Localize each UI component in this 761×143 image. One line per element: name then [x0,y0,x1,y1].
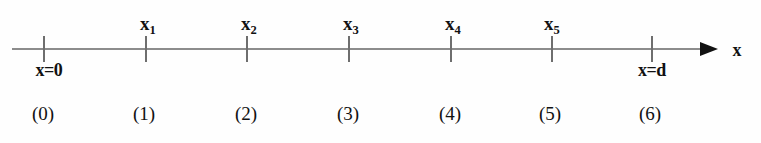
point-label-x3-base: x [343,13,353,34]
tick-mark-3 [348,36,350,62]
point-label-x4-base: x [445,13,455,34]
index-label-4: (4) [439,104,461,123]
point-label-x3-subscript: 3 [353,23,359,37]
axis-name-label: x [733,41,742,59]
point-label-x1-subscript: 1 [150,23,156,37]
index-label-3: (3) [337,104,359,123]
axis-arrowhead [700,42,718,56]
point-label-x5: x5 [544,14,560,37]
tick-mark-5 [551,36,553,62]
point-label-x5-base: x [544,13,554,34]
tick-mark-2 [246,36,248,62]
index-label-0: (0) [32,104,54,123]
index-label-6: (6) [639,104,661,123]
point-label-x4: x4 [445,14,461,37]
index-label-2: (2) [235,104,257,123]
tick-mark-1 [145,36,147,62]
point-label-x2: x2 [241,14,257,37]
number-line-figure: x x1 x2 x3 x4 x5 x=0 x=d (0) (1) (2) (3)… [0,0,761,143]
point-label-x1-base: x [140,13,150,34]
point-label-x5-subscript: 5 [554,23,560,37]
axis-line [12,48,700,50]
index-label-5: (5) [539,104,561,123]
point-label-x3: x3 [343,14,359,37]
tick-mark-6 [651,36,653,62]
end-endpoint-label: x=d [638,61,666,79]
index-label-1: (1) [133,104,155,123]
tick-mark-0 [43,36,45,62]
point-label-x2-base: x [241,13,251,34]
start-endpoint-label: x=0 [36,61,63,79]
point-label-x1: x1 [140,14,156,37]
point-label-x4-subscript: 4 [455,23,461,37]
tick-mark-4 [450,36,452,62]
point-label-x2-subscript: 2 [251,23,257,37]
